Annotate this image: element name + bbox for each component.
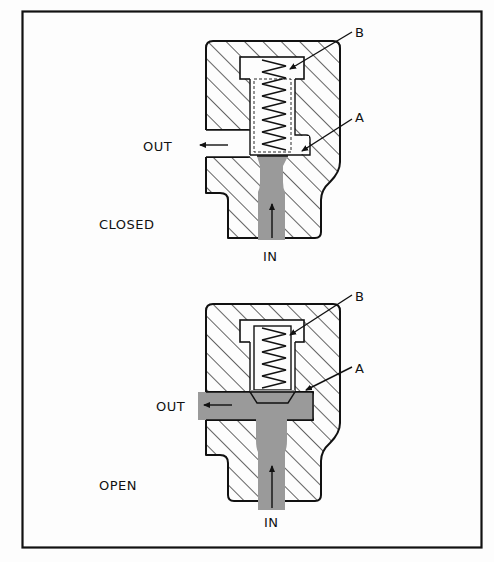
- piston-bore: [250, 76, 295, 156]
- open-valve: B A OUT IN OPEN: [99, 289, 364, 530]
- check-valve-diagram: B A OUT IN CLOSED B A OUT IN OPEN: [0, 0, 494, 562]
- label-a: A: [355, 110, 364, 125]
- label-in: IN: [263, 249, 278, 264]
- label-b: B: [355, 289, 364, 304]
- label-a: A: [355, 361, 364, 376]
- label-b: B: [355, 25, 364, 40]
- label-in: IN: [264, 515, 279, 530]
- cap-cavity: [240, 57, 304, 79]
- state-label-closed: CLOSED: [99, 217, 155, 232]
- closed-valve: B A OUT IN CLOSED: [99, 25, 364, 264]
- label-out: OUT: [143, 139, 172, 154]
- label-out: OUT: [156, 399, 185, 414]
- outlet-channel: [205, 130, 250, 157]
- state-label-open: OPEN: [99, 478, 137, 493]
